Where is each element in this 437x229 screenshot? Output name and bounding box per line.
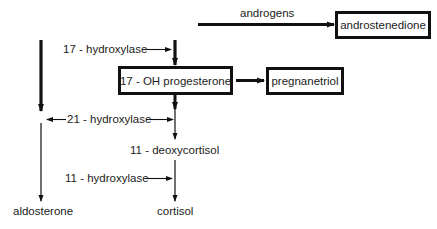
hydroxylase-21-label: 21 - hydroxylase: [67, 112, 151, 126]
deoxycortisol-label: 11 - deoxycortisol: [130, 143, 219, 157]
pregnanetriol-label: pregnanetriol: [271, 75, 338, 87]
cortisol-label: cortisol: [157, 204, 193, 218]
pregnanetriol-box: pregnanetriol: [266, 67, 344, 95]
hydroxylase-11-label: 11 - hydroxylase: [65, 171, 149, 185]
oh-progesterone-box: 17 - OH progesterone: [118, 66, 233, 95]
androstenedione-label: androstenedione: [340, 19, 426, 31]
androgens-label: androgens: [240, 6, 294, 20]
androstenedione-box: androstenedione: [335, 11, 431, 39]
aldosterone-label: aldosterone: [13, 204, 73, 218]
hydroxylase-17-label: 17 - hydroxylase: [63, 42, 147, 56]
oh-progesterone-label: 17 - OH progesterone: [120, 75, 231, 87]
